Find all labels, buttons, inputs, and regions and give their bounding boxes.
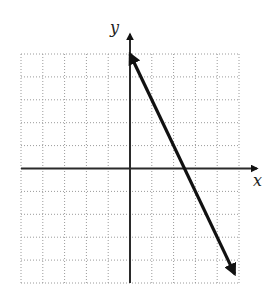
y-axis-label: y — [109, 18, 120, 37]
graphed-line — [130, 54, 235, 274]
x-axis-label: x — [253, 171, 262, 190]
coordinate-graph: x y — [0, 0, 279, 290]
